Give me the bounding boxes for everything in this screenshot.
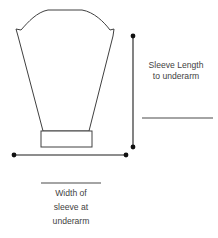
sleeve-width-label-line-2: sleeve at — [54, 202, 89, 212]
diagram-canvas: Sleeve Length to underarm Width of sleev… — [0, 0, 218, 238]
sleeve-width-dimension-dot-right — [124, 153, 129, 158]
sleeve-width-label-line-1: Width of — [55, 188, 87, 198]
sleeve-diagram: Sleeve Length to underarm Width of sleev… — [0, 0, 218, 238]
sleeve-length-label-line-2: to underarm — [153, 71, 199, 81]
sleeve-length-dimension-dot-top — [131, 34, 136, 39]
sleeve-width-label-line-3: underarm — [53, 216, 90, 226]
sleeve-cuff-band — [41, 131, 92, 147]
sleeve-length-dimension-dot-bottom — [131, 145, 136, 150]
sleeve-length-label-line-1: Sleeve Length — [149, 60, 204, 70]
sleeve-width-dimension-dot-left — [12, 153, 17, 158]
